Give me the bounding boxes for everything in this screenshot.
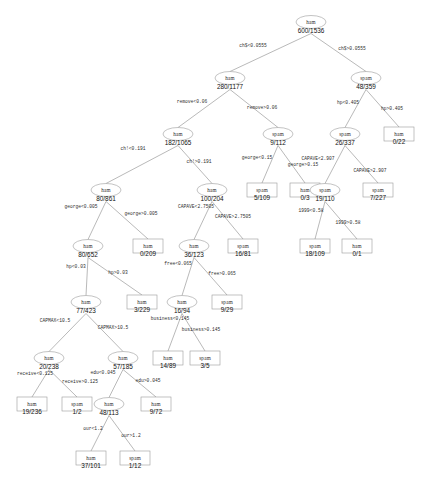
node-count-label: 80/861 [96, 195, 116, 202]
tree-edge [178, 146, 212, 184]
tree-leaf-node: ham3/229 [127, 295, 157, 313]
tree-leaf-node: ham0/209 [133, 239, 163, 257]
node-count-label: 19/236 [22, 408, 42, 415]
edge-split-label: george<0.005 [64, 204, 97, 209]
edge-split-label: ch!>0.191 [187, 159, 212, 164]
tree-leaf-node: spam7/227 [363, 183, 393, 201]
node-count-label: 1/2 [73, 408, 82, 415]
tree-edge [230, 34, 311, 72]
node-count-label: 16/81 [235, 250, 251, 257]
node-count-label: 16/94 [174, 307, 190, 314]
node-count-label: 0/22 [393, 138, 406, 145]
edge-split-label: CAPAVE>2.907 [353, 168, 386, 173]
edge-split-label: free>0.065 [208, 271, 236, 276]
tree-leaf-node: ham9/72 [141, 397, 171, 415]
tree-internal-node: ham16/94 [167, 296, 197, 314]
node-class-label: ham [101, 187, 111, 193]
node-class-label: ham [173, 131, 183, 137]
tree-edge [345, 90, 366, 128]
node-count-label: 9/29 [221, 306, 234, 313]
node-count-label: 9/72 [150, 408, 163, 415]
node-class-label: ham [27, 401, 37, 407]
tree-edge [86, 314, 123, 352]
tree-internal-node: ham600/1536 [296, 16, 326, 34]
edge-split-label: george>0.15 [288, 162, 319, 167]
tree-edge [91, 416, 109, 452]
edge-split-label: george<0.15 [242, 155, 273, 160]
tree-leaf-node: spam3/5 [190, 351, 220, 369]
tree-edge [262, 146, 278, 184]
tree-leaf-node: ham19/236 [17, 397, 47, 415]
node-class-label: ham [44, 355, 54, 361]
edge-split-label: business<0.145 [151, 316, 190, 321]
node-count-label: 20/238 [39, 363, 59, 370]
node-class-label: spam [199, 355, 211, 361]
tree-leaf-node: spam18/109 [300, 239, 330, 257]
node-count-label: 80/652 [78, 251, 98, 258]
node-count-label: 182/1065 [165, 139, 192, 146]
tree-internal-node: ham280/1177 [215, 72, 245, 90]
node-count-label: 0/1 [353, 250, 362, 257]
node-class-label: ham [81, 299, 91, 305]
tree-internal-node: ham20/238 [34, 352, 64, 370]
node-class-label: ham [300, 187, 310, 193]
tree-edge [178, 90, 230, 128]
tree-internal-node: ham77/423 [71, 296, 101, 314]
node-class-label: ham [189, 243, 199, 249]
node-count-label: 37/101 [81, 462, 101, 469]
node-class-label: ham [352, 243, 362, 249]
node-class-label: ham [137, 299, 147, 305]
edge-split-label: edu<0.045 [91, 370, 116, 375]
edge-split-label: free<0.065 [164, 261, 192, 266]
edge-split-label: ch!<0.191 [121, 146, 146, 151]
node-class-label: ham [306, 19, 316, 25]
node-count-label: 48/113 [99, 409, 119, 416]
node-count-label: 600/1536 [298, 27, 325, 34]
edge-split-label: CAPAVE<2.907 [301, 156, 334, 161]
tree-edge [106, 146, 178, 184]
node-count-label: 3/5 [201, 362, 210, 369]
node-class-label: spam [372, 187, 384, 193]
edge-split-label: edu>0.045 [136, 378, 161, 383]
tree-leaf-node: spam9/29 [212, 295, 242, 313]
tree-leaf-node: ham0/1 [342, 239, 372, 257]
edge-split-label: george>0.005 [124, 211, 157, 216]
node-count-label: 57/185 [113, 363, 133, 370]
edge-split-label: receive<0.125 [17, 371, 53, 376]
node-count-label: 26/337 [335, 139, 355, 146]
edge-split-label: ch$<0.0555 [239, 43, 267, 48]
node-class-label: spam [71, 401, 83, 407]
tree-internal-node: ham182/1065 [163, 128, 193, 146]
tree-leaf-node: ham37/101 [76, 451, 106, 469]
tree-internal-node: ham80/652 [73, 240, 103, 258]
decision-tree-diagram: ch$<0.0555ch$>0.0555remove<0.06remove>0.… [0, 0, 423, 487]
edge-split-label: CAPMAX<10.5 [40, 318, 71, 323]
node-count-label: 0/3 [301, 194, 310, 201]
edge-split-label: 1999<0.58 [299, 208, 324, 213]
tree-internal-node: spam26/337 [330, 128, 360, 146]
edge-split-label: remove<0.06 [177, 99, 208, 104]
tree-internal-node: spam9/112 [263, 128, 293, 146]
tree-edge [88, 258, 142, 296]
edge-split-label: hp>0.405 [381, 106, 403, 111]
node-class-label: spam [256, 187, 268, 193]
node-class-label: ham [118, 355, 128, 361]
node-count-label: 100/204 [200, 195, 224, 202]
node-class-label: ham [86, 455, 96, 461]
node-class-label: spam [319, 187, 331, 193]
node-class-label: ham [151, 401, 161, 407]
edge-split-label: our<1.2 [83, 426, 103, 431]
edge-split-label: hp<0.03 [66, 264, 86, 269]
tree-leaf-node: spam16/81 [228, 239, 258, 257]
edge-split-label: hp>0.03 [108, 270, 128, 275]
edge-split-label: our>1.2 [121, 433, 141, 438]
node-class-label: spam [129, 455, 141, 461]
node-class-label: ham [207, 187, 217, 193]
tree-leaf-node: spam1/2 [62, 397, 92, 415]
node-count-label: 48/359 [356, 83, 376, 90]
tree-leaf-node: spam1/12 [120, 451, 150, 469]
node-class-label: ham [163, 355, 173, 361]
node-class-label: spam [360, 75, 372, 81]
tree-internal-node: ham36/123 [179, 240, 209, 258]
tree-internal-node: ham100/204 [197, 184, 227, 202]
